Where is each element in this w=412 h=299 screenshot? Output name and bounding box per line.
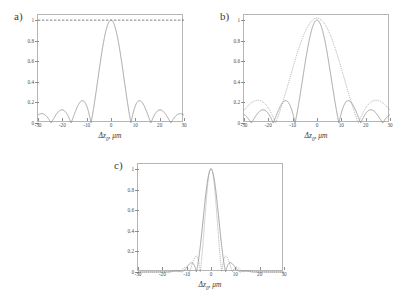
x-tick-mark [341,118,342,121]
panel-c-label: c) [114,159,123,171]
x-tick-mark [317,118,318,121]
data-curve-solid [244,20,390,123]
x-tick-label: 0 [210,271,213,277]
x-tick-label: 10 [233,271,238,277]
panel-b-plot-area: 00.20.40.60.81-30-20-100102030 [243,14,389,122]
y-tick-mark [35,20,39,21]
data-curve-dotted [244,18,390,123]
y-tick-mark [135,251,139,252]
x-tick-label: 10 [339,122,344,128]
x-tick-mark [160,118,161,121]
x-tick-mark [111,118,112,121]
y-tick-label: 0.4 [234,79,240,85]
y-tick-mark [241,41,245,42]
data-curve-solid [138,169,284,272]
x-tick-mark [260,267,261,270]
y-tick-label: 0.2 [28,99,34,105]
x-tick-mark [162,267,163,270]
y-tick-label: 0.8 [28,38,34,44]
panel-c-xaxis-label: Δz0, μm [199,280,222,291]
x-tick-mark [87,118,88,121]
x-tick-label: -30 [241,122,248,128]
y-tick-mark [135,231,139,232]
panel-c-curves [138,164,284,272]
x-tick-label: 20 [157,122,162,128]
x-tick-mark [268,118,269,121]
x-tick-label: -20 [159,271,166,277]
x-tick-mark [284,267,285,270]
x-tick-mark [135,118,136,121]
y-tick-mark [135,190,139,191]
panel-c-plot-area: 00.20.40.60.81-30-20-100102030 [137,163,283,271]
x-tick-label: -20 [265,122,272,128]
x-tick-label: -10 [183,271,190,277]
panel-a-label: a) [14,10,23,22]
y-tick-mark [241,102,245,103]
y-tick-mark [241,61,245,62]
x-tick-mark [62,118,63,121]
x-tick-mark [138,267,139,270]
x-tick-mark [38,118,39,121]
x-tick-label: -10 [83,122,90,128]
x-tick-label: 30 [281,271,286,277]
xlabel-units: , μm [108,131,121,140]
xlabel-units: , μm [314,131,327,140]
y-tick-label: 0.6 [234,58,240,64]
x-tick-mark [244,118,245,121]
y-tick-mark [241,20,245,21]
y-tick-label: 0.6 [128,207,134,213]
x-tick-mark [235,267,236,270]
y-tick-label: 0.8 [234,38,240,44]
y-tick-label: 0.4 [28,79,34,85]
x-tick-mark [366,118,367,121]
panel-a-plot-area: 00.20.40.60.81-30-20-100102030 [37,14,183,122]
y-tick-mark [35,41,39,42]
x-tick-mark [187,267,188,270]
data-curve-dotted [138,168,284,272]
y-tick-label: 0.4 [128,228,134,234]
x-tick-mark [293,118,294,121]
x-tick-mark [211,267,212,270]
y-tick-mark [135,169,139,170]
y-tick-label: 1 [237,17,240,23]
panel-a-xaxis-label: Δz0, μm [99,131,122,142]
y-tick-mark [35,102,39,103]
x-tick-label: 0 [110,122,113,128]
x-tick-label: 0 [316,122,319,128]
y-tick-label: 0.6 [28,58,34,64]
data-curve-solid [38,20,184,123]
y-tick-mark [241,82,245,83]
y-tick-mark [135,210,139,211]
x-tick-label: 10 [133,122,138,128]
y-tick-label: 1 [131,166,134,172]
y-tick-mark [35,82,39,83]
x-tick-mark [184,118,185,121]
x-tick-label: 30 [181,122,186,128]
y-tick-label: 0.8 [128,187,134,193]
x-tick-label: 20 [363,122,368,128]
x-tick-label: -30 [135,271,142,277]
panel-b-xaxis-label: Δz0, μm [305,131,328,142]
panel-a-curves [38,15,184,123]
y-tick-label: 0.2 [128,248,134,254]
x-tick-label: 20 [257,271,262,277]
x-tick-label: -10 [289,122,296,128]
xlabel-units: , μm [208,280,221,289]
y-tick-label: 0.2 [234,99,240,105]
panel-b-label: b) [220,10,229,22]
y-tick-label: 1 [31,17,34,23]
x-tick-label: -30 [35,122,42,128]
panel-b-curves [244,15,390,123]
y-tick-mark [35,61,39,62]
x-tick-mark [390,118,391,121]
x-tick-label: 30 [387,122,392,128]
x-tick-label: -20 [59,122,66,128]
